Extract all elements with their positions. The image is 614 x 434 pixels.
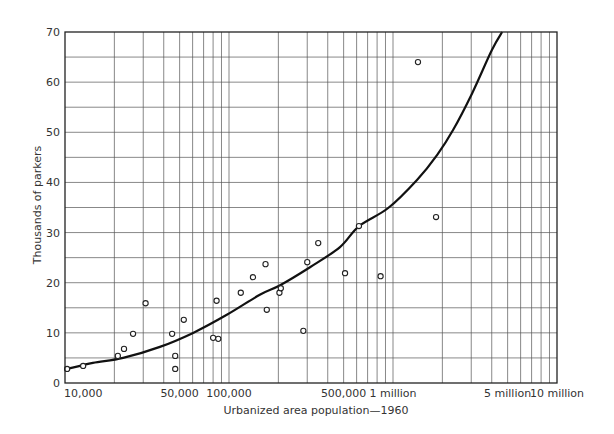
grid [65, 32, 557, 383]
y-tick-label: 70 [46, 26, 60, 39]
data-point-marker [342, 271, 347, 276]
data-points [65, 59, 439, 371]
y-tick-label: 20 [46, 277, 60, 290]
chart: 010203040506070 10,00050,000100,000500,0… [0, 0, 614, 434]
data-point-marker [216, 336, 221, 341]
data-point-marker [278, 286, 283, 291]
y-tick-label: 10 [46, 327, 60, 340]
y-axis-ticks: 010203040506070 [46, 26, 60, 390]
data-point-marker [264, 307, 269, 312]
data-point-marker [173, 353, 178, 358]
x-tick-label: 10 million [530, 387, 584, 400]
data-point-marker [130, 331, 135, 336]
data-point-marker [211, 335, 216, 340]
fitted-curve-path [67, 32, 502, 369]
x-tick-label: 10,000 [64, 387, 103, 400]
x-tick-label: 500,000 [321, 387, 367, 400]
x-tick-label: 5 million [484, 387, 531, 400]
y-tick-label: 30 [46, 227, 60, 240]
data-point-marker [181, 317, 186, 322]
data-point-marker [81, 363, 86, 368]
data-point-marker [170, 331, 175, 336]
y-tick-label: 0 [53, 377, 60, 390]
data-point-marker [214, 298, 219, 303]
data-point-marker [415, 59, 420, 64]
data-point-marker [250, 275, 255, 280]
x-tick-label: 100,000 [206, 387, 252, 400]
data-point-marker [356, 223, 361, 228]
y-axis-title: Thousands of parkers [31, 146, 44, 266]
data-point-marker [316, 241, 321, 246]
x-tick-label: 1 million [369, 387, 416, 400]
data-point-marker [301, 328, 306, 333]
data-point-marker [378, 274, 383, 279]
data-point-marker [143, 301, 148, 306]
data-point-marker [263, 262, 268, 267]
y-tick-label: 60 [46, 76, 60, 89]
y-tick-label: 40 [46, 176, 60, 189]
data-point-marker [115, 353, 120, 358]
data-point-marker [433, 214, 438, 219]
x-axis-title: Urbanized area population—1960 [224, 404, 409, 417]
fitted-curve [67, 32, 502, 369]
data-point-marker [238, 290, 243, 295]
x-axis-ticks: 10,00050,000100,000500,0001 million5 mil… [64, 387, 584, 400]
data-point-marker [305, 260, 310, 265]
data-point-marker [173, 366, 178, 371]
y-tick-label: 50 [46, 126, 60, 139]
data-point-marker [121, 346, 126, 351]
x-tick-label: 50,000 [160, 387, 199, 400]
